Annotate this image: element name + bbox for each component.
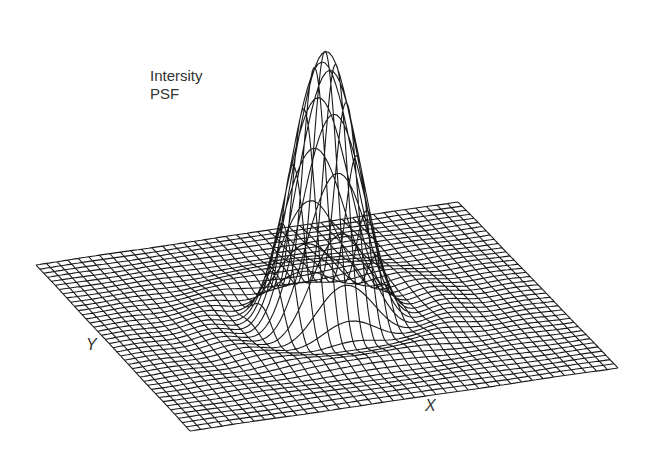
y-axis-label: Y — [86, 336, 97, 354]
psf-wireframe-surface — [0, 0, 654, 454]
x-axis-label: X — [425, 397, 436, 415]
annotation-line-2: PSF — [150, 85, 203, 103]
annotation-line-1: Intersity — [150, 67, 203, 85]
surface-mesh — [36, 52, 618, 432]
plot-annotation: Intersity PSF — [150, 67, 203, 103]
